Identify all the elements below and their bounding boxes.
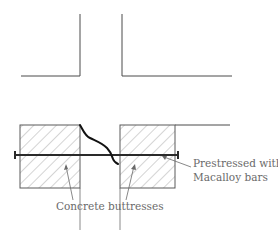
crack-line: [80, 125, 118, 164]
label-concrete-buttresses: Concrete buttresses: [56, 200, 164, 212]
upper-right-wall-line: [122, 14, 232, 76]
upper-wall-plan: [21, 14, 232, 76]
strengthening-diagram: Concrete buttresses Prestressed with Mac…: [0, 0, 278, 243]
upper-left-wall-line: [21, 14, 80, 76]
label-prestressed-line1: Prestressed with: [193, 157, 278, 169]
left-concrete-buttress: [20, 125, 80, 188]
label-prestressed-line2: Macalloy bars: [193, 171, 268, 183]
